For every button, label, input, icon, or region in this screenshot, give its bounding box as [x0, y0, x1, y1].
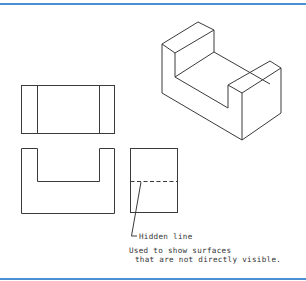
top-view [22, 86, 115, 134]
drawing-canvas: Hidden line Used to show surfaces that a… [0, 0, 306, 281]
hidden-line-callout: Hidden line [139, 232, 193, 241]
description-line-2: that are not directly visible. [135, 255, 281, 264]
isometric-view [162, 22, 281, 140]
hidden-line-leader [132, 182, 142, 236]
front-view [22, 149, 115, 214]
description-line-1: Used to show surfaces [129, 246, 231, 255]
